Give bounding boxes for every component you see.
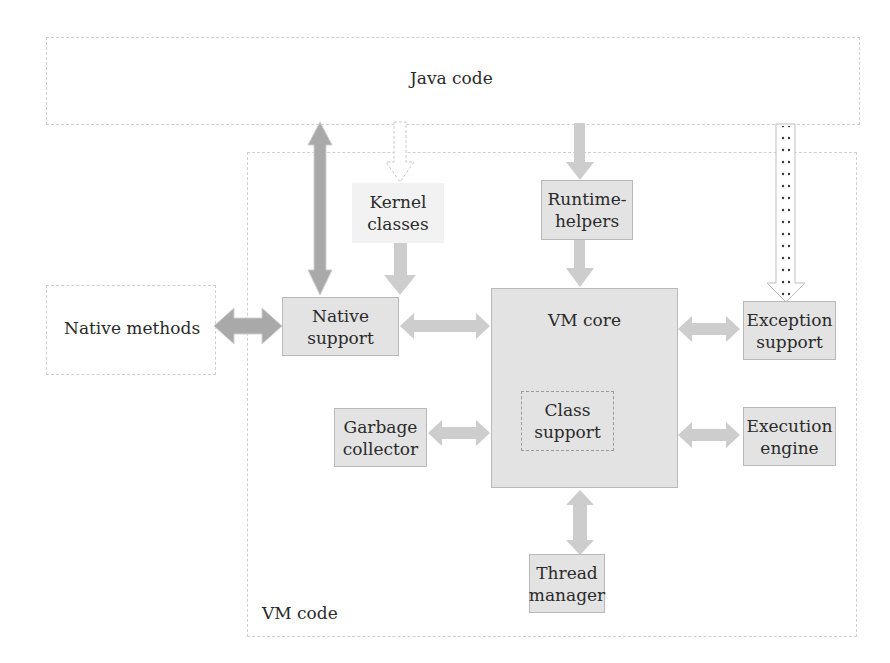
vmcore-execution-arrow <box>678 422 740 448</box>
native-methods-support-arrow <box>214 308 282 344</box>
native-support-java-arrow <box>308 122 332 295</box>
java-kernel-arrow <box>386 122 414 182</box>
kernel-classes-label-2: classes <box>367 213 428 235</box>
exception-support-label-2: support <box>756 331 823 353</box>
garbage-collector-label-2: collector <box>343 438 418 460</box>
execution-engine-label-1: Execution <box>747 415 833 437</box>
execution-engine-box: Execution engine <box>743 407 836 466</box>
class-support-label-1: Class <box>544 399 590 421</box>
native-support-label: Native support <box>283 305 398 349</box>
kernel-classes-label-1: Kernel <box>370 191 427 213</box>
class-support-label-2: support <box>534 421 601 443</box>
thread-manager-box: Thread manager <box>529 554 605 613</box>
runtime-helpers-box: Runtime- helpers <box>541 180 633 240</box>
runtime-helpers-label-1: Runtime- <box>548 188 627 210</box>
runtime-helpers-label-2: helpers <box>555 210 619 232</box>
execution-engine-label-2: engine <box>760 437 818 459</box>
vm-core-box: VM core <box>491 288 678 488</box>
runtime-vmcore-arrow <box>566 240 594 287</box>
class-support-box: Class support <box>521 391 614 451</box>
garbage-collector-label-1: Garbage <box>344 416 418 438</box>
vmcore-exception-arrow <box>678 316 740 342</box>
garbage-collector-box: Garbage collector <box>334 408 427 467</box>
gc-vmcore-arrow <box>428 420 490 446</box>
java-runtime-arrow <box>566 123 594 180</box>
kernel-classes-box: Kernel classes <box>352 183 444 243</box>
native-vmcore-arrow <box>400 313 490 339</box>
kernel-native-arrow <box>384 243 416 295</box>
vm-core-label: VM core <box>548 309 621 331</box>
native-support-box: Native support <box>282 297 399 356</box>
thread-manager-label-1: Thread <box>536 562 598 584</box>
thread-manager-label-2: manager <box>529 584 605 606</box>
exception-support-box: Exception support <box>743 301 836 360</box>
vmcore-thread-arrow <box>566 490 594 555</box>
exception-support-label-1: Exception <box>747 309 833 331</box>
